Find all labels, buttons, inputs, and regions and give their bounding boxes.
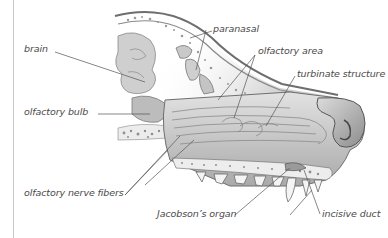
label-turbinate-structure: turbinate structure bbox=[297, 68, 385, 79]
label-olfactory-bulb: olfactory bulb bbox=[24, 106, 88, 117]
label-olfactory-area: olfactory area bbox=[258, 45, 323, 56]
nasal-anatomy-diagram: brain olfactory bulb olfactory nerve fib… bbox=[0, 0, 388, 238]
label-jacobsons-organ: Jacobson’s organ bbox=[157, 208, 236, 219]
label-olfactory-nerve-fibers: olfactory nerve fibers bbox=[24, 187, 124, 198]
label-brain: brain bbox=[24, 43, 48, 54]
leader-lines bbox=[0, 0, 388, 238]
label-incisive-duct: incisive duct bbox=[322, 208, 380, 219]
label-paranasal: paranasal bbox=[213, 23, 259, 34]
